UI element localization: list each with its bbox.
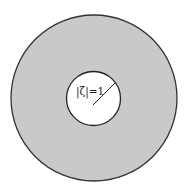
diagram-svg: |ζ|=1 [0,0,189,188]
annulus-diagram: |ζ|=1 [0,0,189,188]
unit-circle-label: |ζ|=1 [76,85,104,99]
unit-circle [67,72,121,126]
